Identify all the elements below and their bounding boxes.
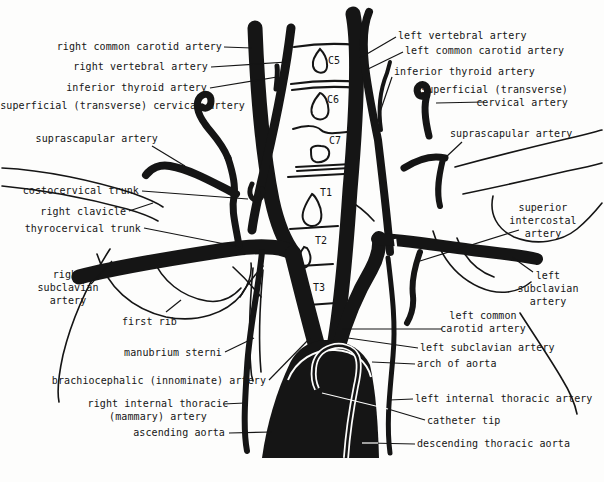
left-suprascapular-descending [438,159,443,206]
leader-line [348,338,418,348]
vertebra-label-t2: T2 [315,235,327,246]
anatomy-label-right-subclavian-artery: right subclavian artery [37,269,98,307]
leader-line [166,300,181,312]
leader-line [129,203,153,211]
anatomy-label-left-internal-thoracic-artery: left internal thoracic artery [415,393,593,406]
right-thyrocervical-trunk-vessel [228,158,239,246]
leader-line [224,47,252,48]
anatomy-label-left-subclavian-artery-origin: left subclavian artery [420,342,555,355]
vertebra-label-c7: C7 [329,135,341,146]
anatomy-label-manubrium-sterni: manubrium sterni [124,347,222,360]
leader-line [388,409,425,420]
c6-spinous-process [311,93,328,119]
vertebra-label-t1: T1 [320,187,332,198]
anatomy-label-right-common-carotid-artery: right common carotid artery [57,41,222,54]
anatomy-label-first-rib: first rib [122,316,177,329]
leader-line [210,77,277,88]
leader-line [229,432,272,433]
figure-canvas: right common carotid arteryright vertebr… [0,0,604,482]
c5-spinous-process [313,49,327,73]
vertebra-label-t3: T3 [313,282,325,293]
anatomy-label-right-vertebral-artery: right vertebral artery [73,61,208,74]
anatomy-label-costocervical-trunk: costocervical trunk [23,185,139,198]
anatomy-label-brachiocephalic-innominate-artery: brachiocephalic (innominate) artery [52,375,266,388]
c7-ring [311,146,329,162]
anatomy-label-thyrocervical-trunk: thyrocervical trunk [25,223,141,236]
left-internal-thoracic-vessel [388,258,394,453]
anatomy-label-ascending-aorta: ascending aorta [133,427,225,440]
anatomy-label-descending-thoracic-aorta: descending thoracic aorta [417,438,570,451]
leader-line [445,142,462,158]
left-inferior-thyroid-vessel [380,62,390,130]
anatomy-label-left-common-carotid-artery-top: left common carotid artery [405,45,564,58]
anatomy-label-superficial-transverse-cervical-artery-right: superficial (transverse) cervical artery [0,100,245,113]
vertebra-label-c6: C6 [327,94,339,105]
anatomy-label-right-internal-thoracic-mammary-artery: right internal thoracic (mammary) artery [88,398,229,424]
anatomy-label-left-common-carotid-artery-bottom: left common carotid artery [440,310,526,336]
left-clavicle-outline-2 [463,163,602,194]
anatomy-label-inferior-thyroid-artery-right: inferior thyroid artery [66,82,207,95]
right-suprascapular-vessel [146,165,236,194]
c7-t1-line [296,164,352,167]
c7-t1-line-2 [297,168,350,171]
t1-spinous-process [303,194,322,226]
anatomy-label-superior-intercostal-artery: superior intercostal artery [509,202,576,240]
anatomy-label-arch-of-aorta: arch of aorta [417,358,497,371]
anatomy-label-left-vertebral-artery: left vertebral artery [398,30,527,43]
anatomy-label-catheter-tip: catheter tip [427,415,500,428]
c7-body-line [293,126,356,133]
anatomy-label-left-subclavian-artery-lateral: left subclavian artery [517,270,578,308]
anatomy-label-suprascapular-artery-left: suprascapular artery [450,128,572,141]
leader-line [389,399,413,400]
anatomy-label-inferior-thyroid-artery-left: inferior thyroid artery [394,66,535,79]
anatomy-label-superficial-transverse-cervical-artery-left: superficial (transverse) cervical artery [421,84,568,110]
t1-body-line [288,174,344,177]
c5-body-line [294,44,358,47]
anatomy-label-right-clavicle: right clavicle [40,206,126,219]
left-superior-intercostal-vessel [407,252,420,323]
leader-line [144,228,240,247]
anatomy-label-suprascapular-artery-right: suprascapular artery [36,133,158,146]
vertebra-label-c5: C5 [328,55,340,66]
